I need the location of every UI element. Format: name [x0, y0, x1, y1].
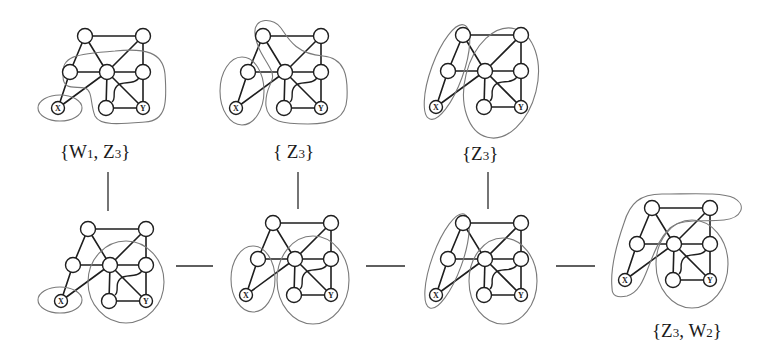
node-mr — [314, 65, 329, 80]
graphs: XYXYXYXYXYXYXY — [38, 20, 741, 324]
set-label-bottom-4: {Z3, W2} — [652, 320, 722, 341]
node-ml — [630, 237, 645, 252]
node-label-y: Y — [328, 291, 334, 300]
node-bm — [102, 294, 117, 309]
node-bm — [99, 101, 114, 116]
node-ml — [441, 252, 456, 267]
node-label-y: Y — [518, 291, 524, 300]
node-label-y: Y — [140, 104, 146, 113]
graph-bottom-3: XY — [416, 209, 537, 324]
node-bm — [666, 273, 681, 288]
node-tr — [514, 216, 529, 231]
node-tr — [324, 216, 339, 231]
set-labels: {W1, Z3}{ Z3}{Z3}{Z3, W2} — [60, 141, 722, 341]
graph-top-1: XY — [38, 29, 166, 124]
node-tr — [136, 29, 151, 44]
node-c — [478, 252, 493, 267]
node-c — [103, 258, 118, 273]
node-label-x: X — [243, 291, 249, 300]
node-bm — [477, 288, 492, 303]
set-label-top-2: { Z3} — [273, 141, 314, 162]
node-mr — [139, 258, 154, 273]
node-label-y: Y — [143, 297, 149, 306]
node-mr — [136, 65, 151, 80]
node-label-y: Y — [518, 103, 524, 112]
node-tr — [514, 28, 529, 43]
node-tl — [256, 29, 271, 44]
node-tl — [81, 222, 96, 237]
node-tl — [645, 201, 660, 216]
region-outline-2 — [656, 220, 728, 308]
node-label-y: Y — [707, 276, 713, 285]
node-bm — [277, 101, 292, 116]
separator-regions — [415, 20, 550, 147]
node-mr — [514, 64, 529, 79]
node-label-x: X — [622, 276, 628, 285]
node-label-y: Y — [318, 104, 324, 113]
node-bm — [287, 288, 302, 303]
node-ml — [241, 65, 256, 80]
node-c — [100, 65, 115, 80]
node-tl — [456, 216, 471, 231]
node-tl — [266, 216, 281, 231]
region-outline-2 — [277, 236, 349, 324]
graph-top-2: XY — [220, 20, 347, 125]
node-tr — [314, 29, 329, 44]
node-mr — [514, 252, 529, 267]
set-label-top-1: {W1, Z3} — [60, 141, 130, 162]
node-label-x: X — [433, 291, 439, 300]
graph-top-3: XY — [415, 20, 550, 147]
node-bm — [477, 100, 492, 115]
node-c — [278, 65, 293, 80]
graph-bottom-2: XY — [231, 216, 349, 325]
node-ml — [251, 252, 266, 267]
node-c — [478, 64, 493, 79]
region-outline-2 — [63, 50, 166, 124]
node-c — [667, 237, 682, 252]
node-ml — [441, 64, 456, 79]
graph-bottom-4: XY — [612, 194, 742, 308]
separator-lattice-diagram: XYXYXYXYXYXYXY {W1, Z3}{ Z3}{Z3}{Z3, W2} — [0, 0, 768, 359]
node-label-x: X — [233, 104, 239, 113]
node-tr — [139, 222, 154, 237]
node-mr — [324, 252, 339, 267]
region-outline-2 — [469, 238, 537, 324]
node-label-x: X — [433, 103, 439, 112]
node-ml — [66, 258, 81, 273]
node-mr — [703, 237, 718, 252]
node-tl — [78, 29, 93, 44]
node-tl — [456, 28, 471, 43]
graph-bottom-1: XY — [38, 222, 164, 324]
node-label-x: X — [58, 297, 64, 306]
node-label-x: X — [55, 104, 61, 113]
node-tr — [703, 201, 718, 216]
node-ml — [63, 65, 78, 80]
set-label-top-3: {Z3} — [462, 143, 498, 164]
node-c — [288, 252, 303, 267]
separator-regions — [38, 241, 164, 323]
